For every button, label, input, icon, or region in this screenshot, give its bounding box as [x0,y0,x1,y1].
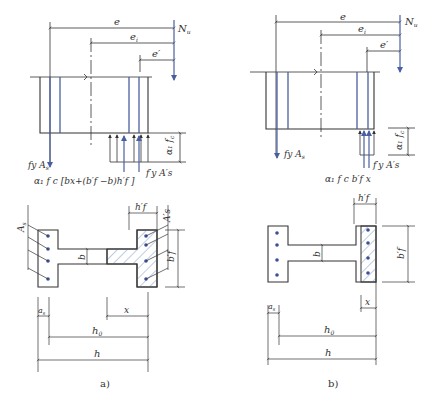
caption-b: b) [328,378,338,389]
eccentricity-dimensions-b [276,15,400,155]
label-e-prime-a: e′ [152,48,161,59]
caption-a: a) [100,378,110,389]
label-ei-b: ei [358,23,366,35]
label-hf-prime-b: h′f [358,193,371,203]
member-elevation-b [250,69,380,129]
depth-dimensions-b [268,282,376,365]
label-b-b: b [312,251,322,257]
label-h-b: h [325,347,331,358]
eccentricity-dimensions-a [50,22,174,165]
label-nu-a: Nu [177,23,191,35]
label-As-prime-a: A′s [162,208,172,223]
label-compression-formula-a: α₁ f c [bx+(b′f −b)h′f ] [34,176,135,186]
label-x-b: x [365,297,370,307]
label-e-prime-b: e′ [380,39,389,50]
label-ei-a: ei [130,31,138,43]
label-as-a: as [38,306,46,316]
label-alpha-fc-b: α₁ fc [394,130,405,150]
label-nu-b: Nu [404,16,418,28]
label-fyAs-b: fy As [283,149,305,160]
label-bf-prime-a: b′f [166,249,176,262]
label-h-a: h [94,348,100,359]
panel-a: e ei e′ Nu α₁ fc [16,16,191,389]
panel-b: e ei e′ Nu α₁ fc fy As f′y A′s α₁ f c [250,11,418,389]
label-fyAs-a: fy As [27,160,49,171]
label-h0-b: h0 [324,324,334,336]
diagram-canvas: e ei e′ Nu α₁ fc [0,0,430,400]
label-e-a: e [114,16,120,27]
label-hf-prime-a: h′f [135,202,148,212]
member-elevation-a [30,74,186,133]
label-alpha-fc-a: α₁ fc [164,135,175,155]
label-b-a: b [77,254,87,260]
label-as-b: as [268,302,276,312]
label-compression-formula-b: α₁ f c b′f x [325,174,371,184]
label-bf-prime-b: b′f [396,246,406,259]
label-h0-a: h0 [92,325,102,337]
label-fyAs-prime-b: f′y A′s [372,160,400,170]
label-As-a: As [16,222,27,233]
label-e-b: e [340,11,346,22]
label-x-a: x [124,305,129,315]
label-fyAs-prime-a: f′y A′s [145,168,173,178]
i-section-b [268,198,415,282]
